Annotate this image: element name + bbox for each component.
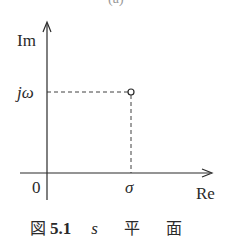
caption-word-1: 平 — [124, 221, 140, 237]
figure-caption: 図5.1s平面 — [30, 220, 220, 237]
caption-number: 5.1 — [50, 220, 71, 237]
sigma-label: σ — [125, 179, 133, 196]
pole-point-marker — [128, 89, 134, 95]
j-omega-label: jω — [17, 84, 34, 101]
caption-variable: s — [91, 220, 98, 237]
imaginary-axis-label: Im — [17, 32, 36, 49]
caption-word-2: 面 — [166, 221, 182, 237]
origin-label: 0 — [32, 179, 41, 196]
real-axis-label: Re — [196, 185, 215, 202]
caption-prefix: 図 — [30, 221, 46, 237]
